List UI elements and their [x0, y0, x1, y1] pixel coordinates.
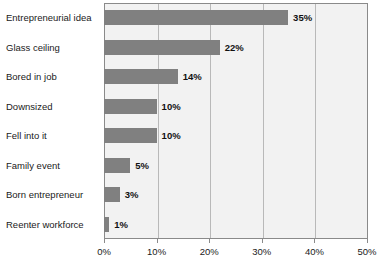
bar — [104, 158, 130, 173]
bar-value-label: 35% — [293, 10, 312, 25]
bar — [104, 187, 120, 202]
bar-value-label: 1% — [114, 217, 128, 232]
category-axis-labels: Entrepreneurial ideaGlass ceilingBored i… — [0, 3, 99, 239]
bar-value-label: 10% — [162, 99, 181, 114]
tick-mark — [209, 239, 210, 243]
tick-mark — [104, 239, 105, 243]
bars-layer: 35%22%14%10%10%5%3%1% — [104, 3, 368, 239]
category-label: Born entrepreneur — [0, 180, 99, 210]
bar-row: 35% — [104, 3, 368, 33]
bar-value-label: 5% — [135, 158, 149, 173]
bar-row: 14% — [104, 62, 368, 92]
bar — [104, 99, 157, 114]
tick-mark — [262, 239, 263, 243]
category-label: Reenter workforce — [0, 210, 99, 240]
x-axis-tick-labels: 0%10%20%30%40%50% — [0, 246, 380, 262]
bar — [104, 10, 288, 25]
x-axis-label: 30% — [252, 246, 271, 257]
category-label: Fell into it — [0, 121, 99, 151]
bar-row: 22% — [104, 33, 368, 63]
category-label: Entrepreneurial idea — [0, 3, 99, 33]
bar-value-label: 22% — [225, 40, 244, 55]
bar-value-label: 10% — [162, 128, 181, 143]
bar-value-label: 3% — [125, 187, 139, 202]
bar-row: 1% — [104, 210, 368, 240]
x-axis-label: 20% — [200, 246, 219, 257]
tick-mark — [157, 239, 158, 243]
bar-chart: Entrepreneurial ideaGlass ceilingBored i… — [0, 0, 380, 266]
x-axis-label: 50% — [357, 246, 376, 257]
bar-row: 10% — [104, 92, 368, 122]
bar — [104, 217, 109, 232]
category-label: Glass ceiling — [0, 33, 99, 63]
category-label: Family event — [0, 151, 99, 181]
bar-row: 3% — [104, 180, 368, 210]
x-axis-label: 0% — [97, 246, 111, 257]
bar-row: 10% — [104, 121, 368, 151]
bar-value-label: 14% — [183, 69, 202, 84]
tick-mark — [367, 239, 368, 243]
bar — [104, 69, 178, 84]
x-axis-label: 10% — [147, 246, 166, 257]
category-label: Bored in job — [0, 62, 99, 92]
bar-row: 5% — [104, 151, 368, 181]
bar — [104, 40, 220, 55]
x-axis-tick-marks — [104, 239, 368, 245]
category-label: Downsized — [0, 92, 99, 122]
x-axis-label: 40% — [305, 246, 324, 257]
tick-mark — [314, 239, 315, 243]
bar — [104, 128, 157, 143]
